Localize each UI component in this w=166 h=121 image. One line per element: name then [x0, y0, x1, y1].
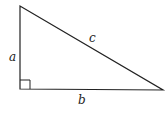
- triangle: [20, 6, 163, 90]
- right-triangle-diagram: a c b: [0, 0, 166, 121]
- right-angle-marker: [20, 80, 30, 89]
- side-label-c: c: [89, 31, 96, 45]
- side-label-a: a: [9, 50, 16, 64]
- side-label-b: b: [78, 93, 86, 107]
